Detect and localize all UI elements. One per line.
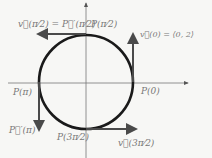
diagram: v⃗(π⁄2) = P⃗′(π⁄2) P(π⁄2) v⃗(0) = ⟨0, 2⟩… [0,0,212,158]
label-right-vector: v⃗(0) = ⟨0, 2⟩ [140,30,194,40]
label-top-point: P(π⁄2) [91,19,117,29]
label-bottom-point: P(3π⁄2) [57,132,89,142]
label-top-vector: v⃗(π⁄2) = P⃗′(π⁄2) [18,19,96,29]
label-bottom-vector: v⃗(3π⁄2) [118,138,154,148]
label-right-point: P(0) [141,86,160,96]
label-left-point: P(π) [13,87,32,97]
label-left-vector: P⃗′(π) [9,125,35,135]
